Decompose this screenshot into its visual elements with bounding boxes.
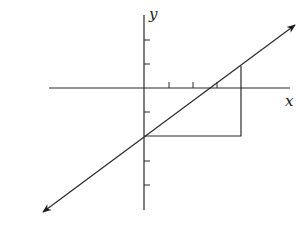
y-axis-label: y — [148, 5, 158, 23]
x-axis-ticks — [169, 82, 217, 88]
y-axis-ticks — [144, 40, 150, 185]
x-axis-label: x — [285, 92, 294, 110]
coordinate-plane: y x — [0, 0, 306, 228]
graph-line — [43, 25, 295, 212]
